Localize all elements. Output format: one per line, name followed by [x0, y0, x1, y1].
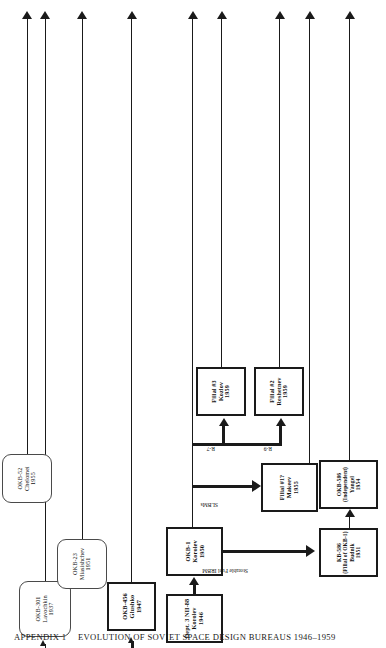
node-nii88-year: 1946	[198, 612, 205, 625]
outbound-arrow-lavochkin	[40, 11, 50, 19]
node-filial3[interactable]: Filial #3 Kozlov 1959	[196, 367, 246, 416]
edge-arrow-kb586-to-okb586	[345, 509, 355, 517]
outbound-line-okb586	[349, 18, 350, 460]
outbound-arrow-okb1	[188, 11, 198, 19]
outbound-arrow-miasishchev	[77, 11, 87, 19]
edge-okb1-to-kb586	[223, 550, 309, 553]
node-miasishchev[interactable]: OKB-23 Miasishchev 1951	[57, 539, 107, 589]
node-filial2[interactable]: Filial #2 Reshetnev 1959	[254, 367, 304, 416]
node-glushko[interactable]: OKB-456 Glushko 1947	[107, 582, 156, 631]
outbound-line-okb1	[192, 18, 193, 527]
node-filial3-year: 1959	[224, 385, 231, 398]
node-filial2-year: 1959	[282, 385, 289, 398]
outbound-arrow-filial2	[275, 11, 285, 19]
node-chelomei[interactable]: OKB-52 Chelomei 1955	[2, 454, 52, 503]
node-kb586[interactable]: KB-586 (Filial of OKB-1) Budnik 1951	[319, 528, 378, 577]
edge-label-storable-fuel: Storable Fuel IRBM	[202, 568, 248, 574]
edge-okb1-to-filial1	[192, 485, 255, 488]
outbound-line-chelomei	[27, 18, 28, 454]
node-okb586-year: 1954	[355, 479, 361, 491]
node-filial1-year: 1955	[293, 481, 300, 494]
node-okb1-person: Korolev	[191, 540, 198, 563]
outbound-arrow-okb586	[345, 11, 355, 19]
edge-r9-to-filial2	[279, 424, 282, 446]
edge-arrow-r9-to-filial2	[276, 418, 286, 426]
inbound-line-glushko	[131, 641, 134, 648]
edge-arrow-nii88-to-okb1	[189, 577, 199, 585]
node-glushko-name: OKB-456	[121, 593, 128, 620]
node-glushko-person: Glushko	[128, 595, 135, 619]
outbound-line-glushko	[131, 18, 132, 582]
edge-arrow-okb1-to-kb586	[306, 546, 315, 558]
figure-caption: APPENDIX 1 EVOLUTION OF SOVIET SPACE DES…	[0, 632, 386, 642]
edge-nii88-to-okb1	[193, 584, 196, 594]
node-chelomei-year: 1955	[30, 472, 37, 485]
edge-label-slbm: SLBMs	[201, 502, 218, 508]
node-okb1-year: 1950	[198, 545, 205, 558]
node-lavochkin-year: 1937	[48, 603, 55, 616]
node-filial1[interactable]: Filial #1? Makeev 1955	[261, 463, 318, 512]
edge-arrow-r7-to-filial3	[219, 418, 229, 426]
node-okb586[interactable]: OKB-586 (Independent) Yangel 1954	[319, 460, 378, 509]
edge-label-slbm-text: SLBMs	[201, 502, 218, 508]
outbound-line-filial1	[309, 18, 310, 463]
node-glushko-year: 1947	[135, 600, 142, 613]
inbound-line-lavochkin	[45, 644, 46, 648]
node-kb586-year: 1951	[355, 547, 361, 559]
edge-arrow-okb1-to-filial1	[252, 481, 261, 493]
edge-label-r9: R-9	[264, 446, 272, 452]
node-lavochkin[interactable]: OKB-301 Lavochkin 1937	[19, 581, 71, 637]
edge-r7-to-filial3	[222, 424, 225, 446]
outbound-line-miasishchev	[82, 18, 83, 539]
diagram-canvas: OKB-301 Lavochkin 1937 OKB-23 Miasishche…	[0, 0, 386, 648]
outbound-line-filial2	[279, 18, 280, 367]
outbound-arrow-filial3	[217, 11, 227, 19]
outbound-line-filial3	[221, 18, 222, 367]
outbound-arrow-filial1	[305, 11, 315, 19]
figure-title: EVOLUTION OF SOVIET SPACE DESIGN BUREAUS…	[78, 632, 336, 642]
outbound-arrow-glushko	[127, 11, 137, 19]
edge-label-r7: R-7	[207, 446, 215, 452]
outbound-arrow-chelomei	[22, 11, 32, 19]
node-miasishchev-year: 1951	[85, 558, 92, 571]
figure-appendix-label: APPENDIX 1	[14, 632, 66, 642]
node-okb1-name: OKB-1	[184, 541, 191, 561]
